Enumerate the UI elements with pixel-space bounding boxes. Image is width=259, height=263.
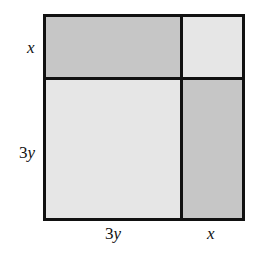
region-top-left [44,15,182,79]
label-bottom-right-var: x [207,224,215,243]
region-top-right [182,15,244,79]
border-bottom [43,218,245,221]
border-right [242,14,245,221]
square-partition-diagram: x 3y 3y x [0,0,259,263]
label-left-top: x [27,39,35,56]
divider-vertical [180,14,183,221]
label-left-top-var: x [27,38,35,57]
border-top [43,14,245,17]
label-left-bottom-coef: 3 [19,143,28,162]
label-left-bottom-var: y [28,143,36,162]
label-left-bottom: 3y [19,144,35,161]
border-left [43,14,46,221]
region-bottom-left [44,79,182,220]
label-bottom-left-coef: 3 [105,224,114,243]
label-bottom-right: x [207,225,215,242]
label-bottom-left-var: y [114,224,122,243]
divider-horizontal [43,77,245,80]
region-bottom-right [182,79,244,220]
label-bottom-left: 3y [105,225,121,242]
